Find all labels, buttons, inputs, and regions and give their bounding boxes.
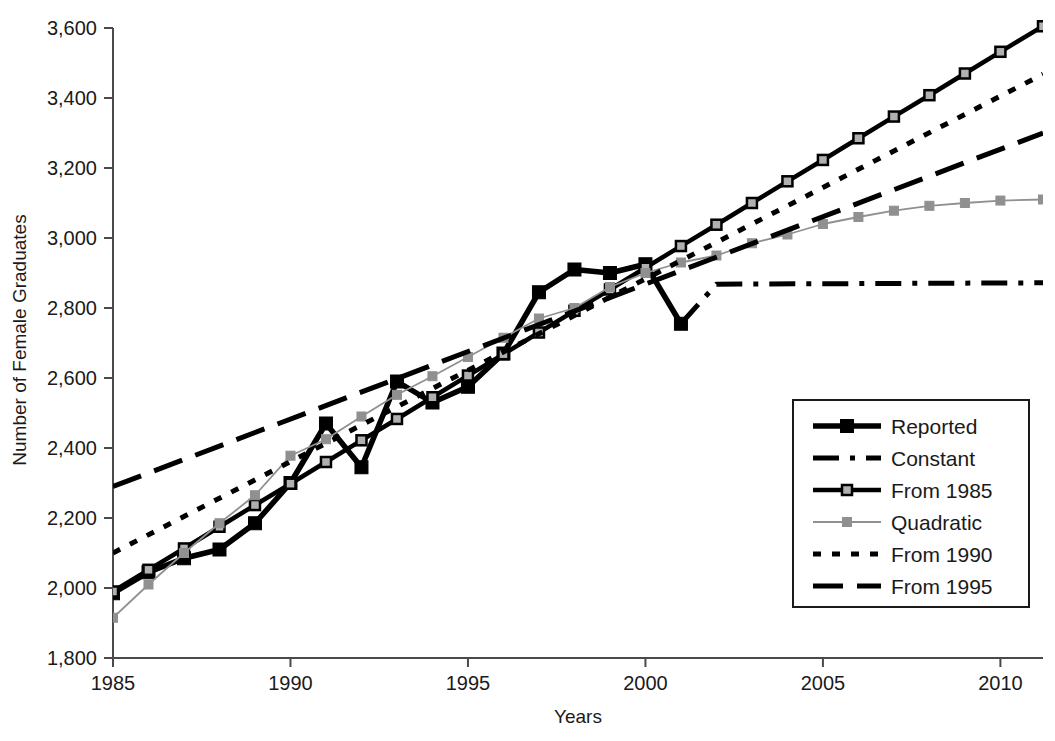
x-tick-label: 1995 [446, 672, 491, 694]
data-point-marker [427, 392, 437, 402]
data-point-marker [250, 491, 259, 500]
y-tick-label: 2,000 [47, 577, 97, 599]
data-point-marker [641, 269, 650, 278]
y-tick-label: 3,000 [47, 227, 97, 249]
data-point-marker [853, 133, 863, 143]
data-point-marker [603, 267, 616, 280]
y-tick-label: 1,800 [47, 647, 97, 669]
data-point-marker [995, 47, 1005, 57]
legend-marker-swatch [843, 518, 852, 527]
data-point-marker [711, 220, 721, 230]
legend-item-label: Constant [891, 447, 975, 470]
data-point-marker [321, 457, 331, 467]
y-tick-label: 2,800 [47, 297, 97, 319]
data-point-marker [818, 220, 827, 229]
data-point-marker [356, 435, 366, 445]
legend-item-label: From 1985 [891, 479, 993, 502]
chart-container: 1,8002,0002,2002,4002,6002,8003,0003,200… [0, 0, 1055, 741]
legend-item-label: Reported [891, 415, 977, 438]
x-tick-label: 1985 [91, 672, 136, 694]
y-tick-label: 2,200 [47, 507, 97, 529]
female-graduates-line-chart: 1,8002,0002,2002,4002,6002,8003,0003,200… [0, 0, 1055, 741]
data-point-marker [248, 517, 261, 530]
legend-marker-swatch [842, 485, 852, 495]
x-tick-label: 2010 [978, 672, 1023, 694]
x-axis-title: Years [554, 706, 602, 727]
chart-legend: ReportedConstantFrom 1985QuadraticFrom 1… [793, 400, 1029, 607]
data-point-marker [286, 451, 295, 460]
data-point-marker [215, 519, 224, 528]
data-point-marker [428, 372, 437, 381]
y-axis-title: Number of Female Graduates [9, 214, 30, 465]
data-point-marker [605, 283, 614, 292]
data-point-marker [144, 580, 153, 589]
data-point-marker [461, 380, 474, 393]
legend-marker-swatch [841, 420, 854, 433]
data-point-marker [676, 258, 685, 267]
data-point-marker [818, 155, 828, 165]
y-tick-label: 2,600 [47, 367, 97, 389]
data-point-marker [782, 176, 792, 186]
legend-item-label: Quadratic [891, 511, 982, 534]
y-tick-label: 3,400 [47, 87, 97, 109]
data-point-marker [532, 286, 545, 299]
data-point-marker [392, 414, 402, 424]
data-point-marker [889, 112, 899, 122]
data-point-marker [321, 435, 330, 444]
legend-item-label: From 1990 [891, 543, 993, 566]
data-point-marker [747, 198, 757, 208]
data-point-marker [463, 371, 473, 381]
data-point-marker [854, 213, 863, 222]
y-tick-label: 3,600 [47, 17, 97, 39]
legend-item-label: From 1995 [891, 575, 993, 598]
data-point-marker [213, 543, 226, 556]
data-point-marker [960, 199, 969, 208]
data-point-marker [250, 500, 260, 510]
data-point-marker [285, 479, 295, 489]
x-tick-label: 2005 [801, 672, 846, 694]
y-tick-label: 3,200 [47, 157, 97, 179]
x-tick-label: 2000 [623, 672, 668, 694]
data-point-marker [357, 412, 366, 421]
data-point-marker [960, 69, 970, 79]
data-point-marker [925, 201, 934, 210]
data-point-marker [568, 263, 581, 276]
data-point-marker [889, 206, 898, 215]
y-tick-label: 2,400 [47, 437, 97, 459]
data-point-marker [355, 461, 368, 474]
data-point-marker [143, 565, 153, 575]
data-point-marker [179, 549, 188, 558]
data-point-marker [924, 90, 934, 100]
data-point-marker [392, 390, 401, 399]
data-point-marker [996, 196, 1005, 205]
x-tick-label: 1990 [268, 672, 313, 694]
data-point-marker [319, 417, 332, 430]
data-point-marker [676, 241, 686, 251]
